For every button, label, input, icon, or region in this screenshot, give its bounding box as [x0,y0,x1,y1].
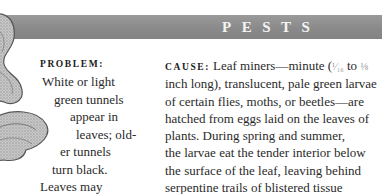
fraction-small: ¹⁄₁₆ [332,61,344,72]
cause-first-line: CAUSE:Leaf miners—minute (¹⁄₁₆ to ⅛ [165,57,380,75]
problem-line: leaves; old- [40,126,135,144]
section-title: PESTS [222,15,320,39]
problem-section: PROBLEM: White or light green tunnels ap… [40,57,135,194]
problem-line: green tunnels [40,91,135,109]
cause-line: plants. During spring and summer, [165,127,380,144]
cause-section: CAUSE:Leaf miners—minute (¹⁄₁₆ to ⅛ inch… [165,57,380,194]
cause-label: CAUSE: [165,62,210,72]
problem-line: Leaves may [40,178,135,194]
cause-text: to [344,58,361,73]
cause-line: of certain flies, moths, or beetles—are [165,93,380,110]
fraction-large: ⅛ [360,61,368,72]
cause-line: serpentine trails of blistered tissue [165,179,380,194]
cause-line: the larvae eat the tender interior below [165,144,380,161]
cause-text: Leaf miners—minute ( [213,58,332,73]
problem-line: turn black. [40,161,135,179]
section-header-bar [0,15,382,39]
problem-label: PROBLEM: [40,57,135,72]
problem-line: appear in [40,108,135,126]
problem-line: er tunnels [40,143,135,161]
cause-line: the surface of the leaf, leaving behind [165,162,380,179]
problem-line: White or light [40,73,135,91]
cause-line: hatched from eggs laid on the leaves of [165,110,380,127]
cause-line: inch long), translucent, pale green larv… [165,75,380,92]
